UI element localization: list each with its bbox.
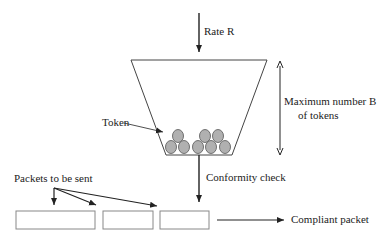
token-icon (206, 141, 217, 154)
token-icon (193, 141, 204, 154)
packets-pointer-arrows (54, 188, 157, 206)
conformity-label: Conformity check (206, 172, 286, 183)
token-icon (213, 130, 224, 143)
packet-box (16, 211, 95, 229)
max-tokens-label-line1: Maximum number B (284, 96, 376, 107)
rate-label: Rate R (204, 26, 234, 37)
packet-box (103, 211, 153, 229)
token-icon (166, 141, 177, 154)
max-tokens-label-line2: of tokens (298, 110, 339, 121)
max-tokens-arrow (277, 61, 283, 155)
packet-box (160, 211, 209, 229)
token-pointer-arrow (124, 123, 163, 132)
token-bucket-diagram (0, 0, 388, 243)
token-icon (179, 141, 190, 154)
token-label: Token (102, 117, 129, 128)
packets (16, 211, 209, 229)
token-icon (220, 141, 231, 154)
tokens (166, 130, 231, 154)
compliant-label: Compliant packet (291, 214, 369, 225)
packets-label: Packets to be sent (14, 173, 93, 184)
